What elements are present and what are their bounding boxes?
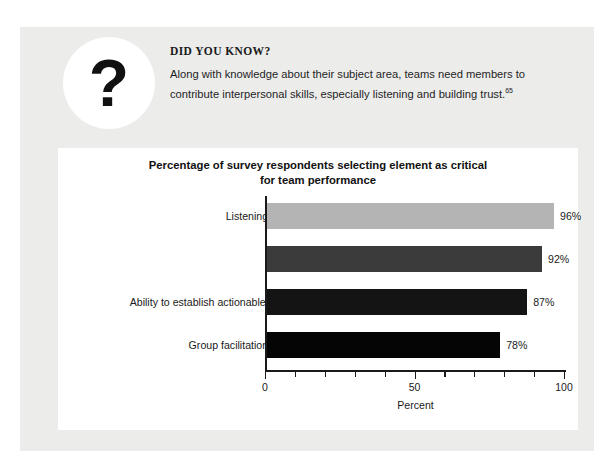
chart-title-line-1: Percentage of survey respondents selecti… xyxy=(68,158,568,173)
x-axis-tick-label: 100 xyxy=(555,381,573,393)
bar xyxy=(267,203,554,229)
bar-row: Listening skills96% xyxy=(58,203,578,229)
x-axis-tick xyxy=(444,371,445,377)
x-axis-tick xyxy=(325,371,326,377)
x-axis-tick xyxy=(295,371,296,377)
bar xyxy=(267,246,542,272)
bar-row: Group facilitation skills78% xyxy=(58,332,578,358)
bar-row: Trust92% xyxy=(58,246,578,272)
x-axis-tick xyxy=(355,371,356,377)
callout-heading: DID YOU KNOW? xyxy=(170,45,570,57)
bar-value-label: 78% xyxy=(506,339,527,351)
bar-chart-plot: Listening skills96%Trust92%Ability to es… xyxy=(58,196,578,392)
x-axis-tick xyxy=(504,371,505,377)
bar xyxy=(267,289,527,315)
bar-row: Ability to establish actionable items87% xyxy=(58,289,578,315)
x-axis-tick xyxy=(474,371,475,377)
footnote-marker: 65 xyxy=(505,87,513,94)
chart-title-line-2: for team performance xyxy=(68,173,568,188)
bar-value-label: 96% xyxy=(560,210,581,222)
bar-value-label: 87% xyxy=(533,296,554,308)
did-you-know-callout: ? DID YOU KNOW? Along with knowledge abo… xyxy=(20,27,594,139)
question-mark-icon: ? xyxy=(63,37,155,129)
chart-title: Percentage of survey respondents selecti… xyxy=(68,158,568,188)
x-axis-tick xyxy=(385,371,386,377)
callout-text-block: DID YOU KNOW? Along with knowledge about… xyxy=(170,45,570,102)
x-axis-tick-label: 50 xyxy=(409,381,421,393)
x-axis-tick xyxy=(415,371,416,379)
content-panel: ? DID YOU KNOW? Along with knowledge abo… xyxy=(20,27,594,451)
x-axis-tick xyxy=(265,371,266,379)
bar-value-label: 92% xyxy=(548,253,569,265)
x-axis-tick-label: 0 xyxy=(262,381,268,393)
chart-card: Percentage of survey respondents selecti… xyxy=(58,148,578,430)
x-axis-title: Percent xyxy=(265,399,566,411)
question-badge: ? xyxy=(63,37,155,129)
callout-body-text: Along with knowledge about their subject… xyxy=(170,68,525,99)
x-axis-tick xyxy=(534,371,535,377)
callout-body: Along with knowledge about their subject… xyxy=(170,66,570,102)
x-axis-tick xyxy=(564,371,565,379)
bar xyxy=(267,332,500,358)
